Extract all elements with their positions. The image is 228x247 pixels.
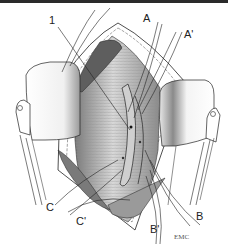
surgical-illustration: [0, 0, 228, 247]
left-retractor: [16, 62, 80, 205]
label-1: 1: [49, 15, 55, 26]
label-c: C: [46, 202, 54, 213]
label-a-prime: A': [184, 29, 193, 40]
right-retractor: [159, 80, 220, 205]
label-c-prime: C': [76, 216, 86, 227]
label-b: B: [196, 211, 203, 222]
label-a: A: [143, 13, 150, 24]
artist-signature: EMC: [174, 233, 189, 241]
label-b-prime: B': [150, 224, 159, 235]
